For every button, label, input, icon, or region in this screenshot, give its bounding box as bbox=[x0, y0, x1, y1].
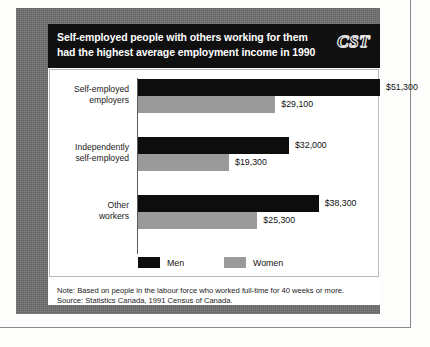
bar-men-1 bbox=[138, 137, 289, 154]
page-border-right bbox=[410, 0, 411, 328]
footnote-source: Source: Statistics Canada, 1991 Census o… bbox=[57, 296, 372, 306]
category-label-2-line-1: Other bbox=[0, 200, 129, 211]
legend-item-men: Men bbox=[138, 256, 184, 269]
figure-page: Self-employed people with others working… bbox=[0, 0, 430, 347]
page-border-bottom bbox=[0, 327, 411, 328]
bar-value-women-2: $25,300 bbox=[263, 212, 295, 229]
figure-card: Self-employed people with others working… bbox=[48, 24, 380, 305]
bar-women-1 bbox=[138, 154, 229, 171]
category-label-2-line-2: workers bbox=[0, 211, 129, 222]
bar-women-2 bbox=[138, 212, 257, 229]
category-label-1: Independently self-employed bbox=[0, 142, 129, 163]
chart-plot-area: Self-employed employers Independently se… bbox=[49, 69, 379, 277]
category-label-0-line-2: employers bbox=[0, 95, 129, 106]
figure-outer-frame: Self-employed people with others working… bbox=[16, 8, 380, 314]
figure-title-line-1: Self-employed people with others working… bbox=[57, 30, 327, 45]
figure-title-bar: Self-employed people with others working… bbox=[48, 24, 380, 68]
category-label-0: Self-employed employers bbox=[0, 84, 129, 105]
figure-title-line-2: had the highest average employment incom… bbox=[57, 45, 327, 60]
cst-logo: CST bbox=[337, 32, 370, 52]
bar-value-women-1: $19,300 bbox=[235, 154, 267, 171]
legend-label-men: Men bbox=[167, 258, 184, 268]
bar-value-men-0: $51,300 bbox=[386, 79, 418, 96]
category-label-1-line-2: self-employed bbox=[0, 153, 129, 164]
category-label-1-line-1: Independently bbox=[0, 142, 129, 153]
category-label-0-line-1: Self-employed bbox=[0, 84, 129, 95]
bar-value-men-2: $38,300 bbox=[325, 195, 357, 212]
bar-men-0 bbox=[138, 79, 380, 96]
footnote-note: Note: Based on people in the labour forc… bbox=[57, 286, 372, 296]
legend-item-women: Women bbox=[224, 256, 283, 269]
legend-swatch-women-icon bbox=[224, 257, 246, 268]
bar-women-0 bbox=[138, 96, 275, 113]
legend-label-women: Women bbox=[253, 258, 283, 268]
bar-value-men-1: $32,000 bbox=[295, 137, 327, 154]
legend-swatch-men-icon bbox=[138, 257, 160, 268]
figure-title: Self-employed people with others working… bbox=[57, 30, 327, 60]
category-label-2: Other workers bbox=[0, 200, 129, 221]
bar-value-women-0: $29,100 bbox=[281, 96, 313, 113]
figure-footnote: Note: Based on people in the labour forc… bbox=[57, 286, 372, 306]
bar-men-2 bbox=[138, 195, 319, 212]
